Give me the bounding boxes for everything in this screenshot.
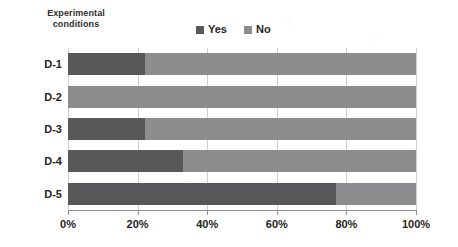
legend-swatch-yes xyxy=(196,26,204,34)
x-axis-tick xyxy=(346,211,347,215)
legend-label-yes: Yes xyxy=(208,24,227,35)
bar-segment-no[interactable] xyxy=(183,150,416,172)
x-axis-line xyxy=(68,210,417,211)
bar-segment-yes[interactable] xyxy=(68,118,145,140)
x-axis-tick xyxy=(416,211,417,215)
bar-segment-no[interactable] xyxy=(145,53,416,75)
axis-title: Experimental conditions xyxy=(24,8,128,30)
legend-item-yes[interactable]: Yes xyxy=(196,24,227,35)
bar-segment-yes[interactable] xyxy=(68,183,336,205)
bar-row xyxy=(68,118,416,140)
x-axis-label: 0% xyxy=(42,218,94,231)
x-axis-tick xyxy=(277,211,278,215)
x-axis-label: 20% xyxy=(112,218,164,231)
legend-swatch-no xyxy=(244,26,252,34)
x-axis-tick xyxy=(207,211,208,215)
axis-title-line-2: conditions xyxy=(24,19,128,30)
x-axis-label: 60% xyxy=(251,218,303,231)
legend-label-no: No xyxy=(256,24,271,35)
bar-segment-yes[interactable] xyxy=(68,150,183,172)
x-axis-label: 40% xyxy=(181,218,233,231)
bar-row xyxy=(68,150,416,172)
y-axis-label-d-5: D-5 xyxy=(16,188,62,200)
x-axis-tick xyxy=(138,211,139,215)
x-axis-label: 100% xyxy=(390,218,442,231)
x-axis-tick xyxy=(68,211,69,215)
bar-row xyxy=(68,183,416,205)
bar-segment-no[interactable] xyxy=(68,86,416,108)
y-axis-label-d-2: D-2 xyxy=(16,91,62,103)
y-axis-label-d-4: D-4 xyxy=(16,155,62,167)
stacked-bar-chart: Experimental conditions Yes No D-1D-2D-3… xyxy=(0,0,458,247)
bar-segment-no[interactable] xyxy=(145,118,416,140)
bar-segment-no[interactable] xyxy=(336,183,416,205)
x-axis-label: 80% xyxy=(320,218,372,231)
chart-legend: Yes No xyxy=(196,24,271,35)
y-axis-label-d-3: D-3 xyxy=(16,123,62,135)
y-axis-label-d-1: D-1 xyxy=(16,58,62,70)
plot-area xyxy=(68,48,416,210)
bar-row xyxy=(68,53,416,75)
axis-title-line-1: Experimental xyxy=(24,8,128,19)
gridline xyxy=(416,48,417,210)
bar-segment-yes[interactable] xyxy=(68,53,145,75)
bar-row xyxy=(68,86,416,108)
legend-item-no[interactable]: No xyxy=(244,24,271,35)
